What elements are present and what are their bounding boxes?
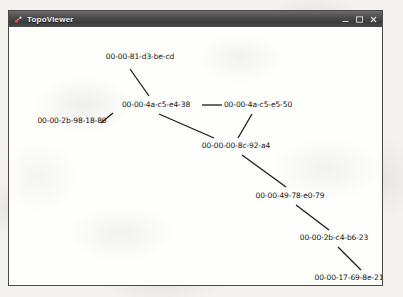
- topology-edge: [238, 114, 252, 138]
- topology-edge: [296, 205, 329, 230]
- node-label[interactable]: 00-00-49-78-e0-79: [256, 192, 325, 200]
- node-label[interactable]: 00-00-4a-c5-e5-50: [224, 101, 292, 109]
- node-label[interactable]: 00-00-81-d3-be-cd: [106, 53, 174, 61]
- maximize-button[interactable]: [354, 14, 365, 24]
- maximize-icon: [355, 15, 364, 24]
- topology-edge: [130, 69, 149, 96]
- topology-edge: [242, 155, 286, 187]
- close-button[interactable]: [368, 14, 379, 24]
- topology-edge: [338, 247, 361, 270]
- node-label[interactable]: 00-00-2b-c4-b6-23: [300, 234, 368, 242]
- node-label[interactable]: 00-00-4a-c5-e4-38: [122, 101, 190, 109]
- minimize-button[interactable]: [340, 14, 351, 24]
- node-label[interactable]: 00-00-2b-98-18-80: [37, 117, 106, 125]
- minimize-icon: [341, 15, 350, 24]
- window-controls: [340, 14, 379, 24]
- topology-canvas[interactable]: 00-00-81-d3-be-cd00-00-4a-c5-e4-3800-00-…: [9, 27, 382, 285]
- app-icon: [14, 15, 23, 24]
- topoviewer-window: TopoViewer 0: [8, 10, 383, 286]
- topology-graph: [9, 27, 382, 285]
- close-icon: [369, 15, 378, 24]
- node-label[interactable]: 00-00-17-69-8e-21: [315, 274, 382, 282]
- window-title: TopoViewer: [27, 15, 74, 24]
- topology-edge: [159, 114, 214, 138]
- window-titlebar[interactable]: TopoViewer: [9, 11, 382, 27]
- node-label[interactable]: 00-00-00-8c-92-a4: [202, 142, 270, 150]
